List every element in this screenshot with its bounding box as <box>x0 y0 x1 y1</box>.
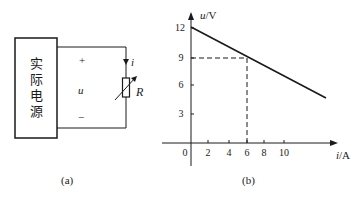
top-wire <box>57 47 126 78</box>
y-tick-3: 3 <box>176 109 186 119</box>
y-axis-arrow-icon <box>188 12 194 20</box>
y-tick-12: 12 <box>173 23 187 33</box>
voltage-label: u <box>78 85 84 96</box>
x-tick-8: 8 <box>259 148 269 158</box>
plus-sign: + <box>79 55 85 66</box>
caption-a: (a) <box>61 175 73 186</box>
current-label: i <box>131 57 134 68</box>
minus-sign: − <box>78 112 84 123</box>
x-tick-6: 6 <box>242 148 252 158</box>
source-label-char-3: 电 <box>28 88 44 104</box>
x-axis-unit: /A <box>339 149 350 161</box>
x-tick-4: 4 <box>224 148 234 158</box>
caption-b: (b) <box>242 175 255 186</box>
origin-label: 0 <box>180 148 190 158</box>
resistor-label: R <box>136 87 143 98</box>
x-axis-arrow-icon <box>330 140 338 146</box>
x-axis-label: i/A <box>336 150 350 161</box>
y-axis-label: u/V <box>200 10 217 21</box>
x-tick-2: 2 <box>203 148 213 158</box>
source-label-char-1: 实 <box>28 56 44 72</box>
y-tick-6: 6 <box>176 80 186 90</box>
x-tick-10: 10 <box>276 148 292 158</box>
bottom-wire <box>57 97 126 128</box>
source-label-char-4: 源 <box>28 104 44 120</box>
dashed-guide-6-9 <box>191 58 247 143</box>
current-arrow-icon <box>123 59 129 65</box>
y-axis-unit: /V <box>206 9 217 21</box>
u-i-characteristic-line <box>191 27 326 98</box>
source-label-char-2: 际 <box>28 72 44 88</box>
y-tick-9: 9 <box>176 53 186 63</box>
